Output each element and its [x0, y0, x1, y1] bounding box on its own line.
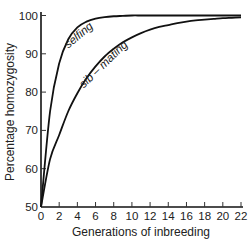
x-tick-label: 2: [56, 210, 62, 222]
y-tick-label: 90: [25, 48, 38, 60]
y-tick-label: 70: [25, 124, 38, 136]
x-tick-label: 6: [92, 210, 98, 222]
x-tick-label: 20: [216, 210, 229, 222]
x-tick-label: 10: [126, 210, 139, 222]
selfing-label: selfing: [62, 19, 96, 50]
x-tick-label: 22: [235, 210, 248, 222]
chart: 0246810121416182022 5060708090100 selfin…: [0, 0, 252, 245]
x-axis-title: Generations of inbreeding: [72, 225, 210, 239]
x-tick-label: 18: [198, 210, 211, 222]
x-ticks: 0246810121416182022: [38, 202, 248, 222]
x-tick-label: 8: [111, 210, 117, 222]
y-axis-title: Percentage homozygosity: [3, 43, 17, 181]
x-tick-label: 4: [74, 210, 81, 222]
y-tick-label: 60: [25, 163, 38, 175]
y-tick-label: 80: [25, 86, 38, 98]
x-tick-label: 12: [144, 210, 157, 222]
y-ticks: 5060708090100: [19, 10, 46, 214]
sib-mating-label: sib – mating: [77, 38, 130, 90]
y-tick-label: 100: [19, 10, 38, 22]
x-tick-label: 0: [38, 210, 44, 222]
x-tick-label: 16: [180, 210, 193, 222]
y-tick-label: 50: [25, 201, 38, 213]
x-tick-label: 14: [162, 210, 175, 222]
